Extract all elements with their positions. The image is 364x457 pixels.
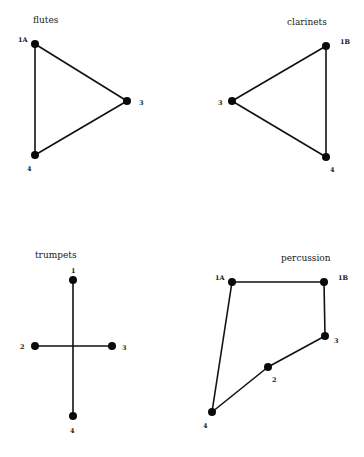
node-label: 1A [215, 274, 226, 282]
node-label: 4 [27, 165, 32, 173]
node-3 [321, 332, 329, 340]
node-label: 3 [122, 344, 127, 352]
node-label: 1B [338, 274, 349, 282]
node-label: 1 [71, 267, 76, 275]
edge-1B-3 [232, 46, 326, 101]
node-label: 4 [330, 166, 335, 174]
node-1B [322, 42, 330, 50]
graph-clarinets: clarinets1B34 [218, 17, 351, 174]
graph-trumpets: trumpets1234 [20, 250, 127, 435]
node-label: 4 [70, 427, 75, 435]
edge-1A-3 [35, 44, 127, 101]
node-1A [31, 40, 39, 48]
edge-1B-3 [324, 282, 325, 336]
node-3 [123, 97, 131, 105]
node-1A [228, 278, 236, 286]
node-label: 3 [218, 99, 223, 107]
edge-3-2 [268, 336, 325, 367]
node-4 [31, 151, 39, 159]
instrument-graphs: flutes1A34clarinets1B34trumpets1234percu… [0, 0, 364, 457]
edge-2-4 [212, 367, 268, 412]
graph-title: trumpets [35, 250, 77, 260]
node-3 [228, 97, 236, 105]
node-2 [264, 363, 272, 371]
graph-title: percussion [281, 253, 331, 263]
node-label: 1A [18, 36, 29, 44]
node-1B [320, 278, 328, 286]
edge-3-4 [232, 101, 326, 157]
graph-title: clarinets [287, 17, 327, 27]
graph-flutes: flutes1A34 [18, 15, 144, 173]
edge-4-1A [212, 282, 232, 412]
node-label: 2 [272, 376, 277, 384]
node-label: 2 [20, 343, 25, 351]
node-4 [69, 412, 77, 420]
node-label: 4 [203, 422, 208, 430]
node-1 [69, 276, 77, 284]
node-label: 3 [334, 337, 339, 345]
node-4 [208, 408, 216, 416]
graph-percussion: percussion1A1B324 [203, 253, 349, 430]
node-3 [108, 342, 116, 350]
graph-title: flutes [33, 15, 59, 25]
node-2 [31, 342, 39, 350]
node-4 [322, 153, 330, 161]
edge-3-4 [35, 101, 127, 155]
node-label: 1B [340, 38, 351, 46]
node-label: 3 [139, 99, 144, 107]
